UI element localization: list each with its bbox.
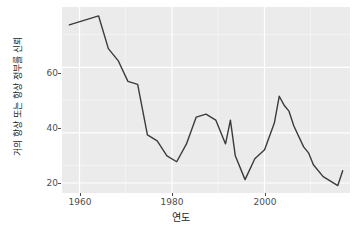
y-tick-mark-60	[58, 73, 61, 74]
trust-line-series	[69, 16, 342, 186]
x-tick-label-2000: 2000	[245, 198, 285, 207]
x-tick-mark-1960	[80, 193, 81, 196]
x-tick-label-1960: 1960	[60, 198, 100, 207]
plot-area	[62, 7, 350, 193]
plot-panel	[62, 7, 350, 193]
y-tick-mark-20	[58, 183, 61, 184]
chart-figure: 60 40 20 1960 1980 2000 연도 거의 항상 또는 항상 정…	[0, 0, 361, 234]
y-tick-mark-40	[58, 128, 61, 129]
y-tick-label-20: 20	[24, 179, 58, 188]
y-tick-label-60: 60	[24, 69, 58, 78]
x-tick-label-1980: 1980	[152, 198, 192, 207]
y-axis-title: 거의 항상 또는 항상 정부를 신뢰	[14, 0, 23, 197]
x-tick-mark-2000	[265, 193, 266, 196]
y-axis-title-wrap: 거의 항상 또는 항상 정부를 신뢰	[0, 0, 20, 200]
x-tick-mark-1980	[172, 193, 173, 196]
y-tick-label-40: 40	[24, 124, 58, 133]
minor-gridlines	[62, 7, 350, 193]
x-axis-title: 연도	[0, 213, 361, 223]
